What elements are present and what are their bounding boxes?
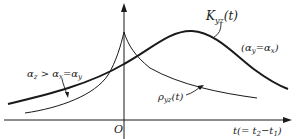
rho-yz-label: ρyz(t): [157, 91, 183, 104]
y-axis-arrow-icon: [121, 3, 127, 12]
origin-label: O: [114, 123, 123, 136]
k-yz-leader: [214, 23, 221, 37]
right-condition-label: (αy=αx): [241, 42, 279, 55]
x-axis-arrow-icon: [283, 117, 292, 123]
y-axis: [121, 3, 127, 139]
correlation-diagram: Kyz(t) (αy=αx) αz > αx=αy ρyz(t) O t(= t…: [0, 0, 296, 139]
k-yz-label: Kyz(t): [205, 9, 238, 25]
left-condition-arrow-icon: [65, 92, 69, 98]
left-condition-label: αz > αx=αy: [27, 68, 83, 81]
x-axis-label: t(= t2−t1): [233, 125, 282, 138]
x-axis: [4, 117, 292, 123]
